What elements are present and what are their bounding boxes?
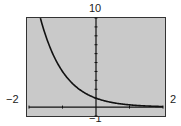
- function-curve: [40, 18, 163, 106]
- plot-area: [0, 0, 181, 126]
